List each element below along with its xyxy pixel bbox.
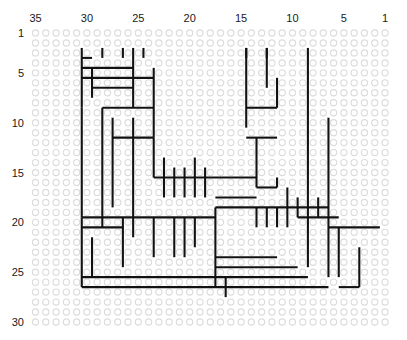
peg [94,189,100,195]
peg [176,239,182,245]
peg [32,319,38,325]
peg [310,70,316,76]
peg [53,319,59,325]
peg [207,279,213,285]
peg [351,120,357,126]
peg [84,229,90,235]
peg [115,120,121,126]
peg [43,30,49,36]
peg [238,259,244,265]
peg [341,219,347,225]
peg [43,169,49,175]
peg [187,239,193,245]
peg [115,60,121,66]
peg [279,60,285,66]
peg [259,120,265,126]
peg [382,60,388,66]
peg [94,249,100,255]
peg [238,189,244,195]
peg [269,169,275,175]
peg [217,279,223,285]
peg [331,140,337,146]
peg [104,40,110,46]
peg [289,299,295,305]
peg [300,130,306,136]
peg [269,140,275,146]
peg [361,100,367,106]
peg [217,309,223,315]
peg [125,319,131,325]
peg [84,169,90,175]
peg [238,149,244,155]
peg [32,259,38,265]
peg [187,179,193,185]
peg [217,159,223,165]
peg [300,299,306,305]
peg [289,120,295,126]
peg [372,309,378,315]
peg [156,239,162,245]
peg [94,229,100,235]
peg [84,269,90,275]
peg [361,120,367,126]
peg [341,269,347,275]
peg [187,269,193,275]
peg [259,219,265,225]
peg [84,189,90,195]
peg [351,309,357,315]
peg [361,90,367,96]
peg [53,60,59,66]
peg [320,219,326,225]
peg [145,189,151,195]
peg [125,40,131,46]
peg [145,199,151,205]
peg [372,279,378,285]
x-axis-tick-label: 20 [184,12,196,24]
peg [279,179,285,185]
peg [176,249,182,255]
peg [228,179,234,185]
peg [300,279,306,285]
peg [32,269,38,275]
peg [320,279,326,285]
peg [341,40,347,46]
peg [125,50,131,56]
peg [63,309,69,315]
peg [74,100,80,106]
peg [43,259,49,265]
peg [145,90,151,96]
peg [331,40,337,46]
peg [187,289,193,295]
peg [217,259,223,265]
peg [269,80,275,86]
peg [63,279,69,285]
peg [207,169,213,175]
peg [341,259,347,265]
peg [84,100,90,106]
peg [310,219,316,225]
peg [217,269,223,275]
peg [115,309,121,315]
peg [310,239,316,245]
peg [207,70,213,76]
peg [382,309,388,315]
peg [84,319,90,325]
peg [43,140,49,146]
peg [63,319,69,325]
peg [248,120,254,126]
peg [351,70,357,76]
peg [176,140,182,146]
peg [63,169,69,175]
peg [351,30,357,36]
peg [259,279,265,285]
peg [145,110,151,116]
peg [341,140,347,146]
peg [125,169,131,175]
peg [176,269,182,275]
peg [269,289,275,295]
peg [207,120,213,126]
peg [289,219,295,225]
peg [187,70,193,76]
peg [43,50,49,56]
peg [156,229,162,235]
